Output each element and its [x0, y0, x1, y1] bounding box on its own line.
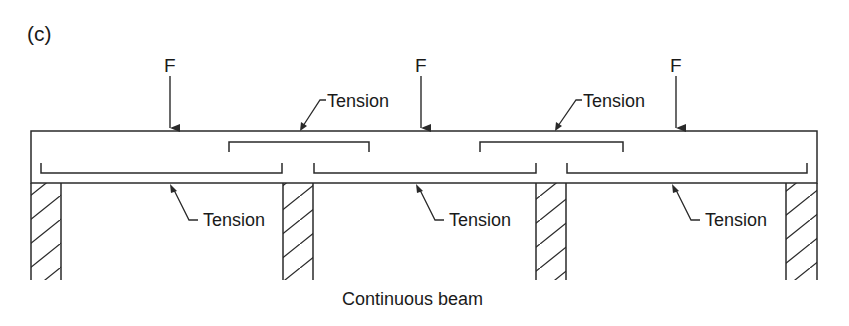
tension-leader-top-1: [300, 100, 326, 131]
tension-label-bottom-1: Tension: [203, 211, 265, 229]
force-label-3: F: [670, 56, 682, 75]
force-label-1: F: [164, 56, 176, 75]
top-reinforcement-1: [229, 142, 369, 152]
support-2: [283, 183, 313, 280]
support-4: [786, 183, 817, 280]
tension-leader-bottom-1: [170, 184, 198, 220]
tension-leader-bottom-2: [416, 184, 444, 220]
continuous-beam-diagram: [0, 0, 849, 326]
beam: [31, 131, 817, 183]
support-3: [536, 183, 566, 280]
bottom-reinforcement-1: [41, 163, 282, 173]
tension-leader-bottom-3: [672, 184, 700, 220]
tension-leader-top-2: [555, 100, 582, 131]
panel-label: (c): [27, 23, 52, 44]
force-label-2: F: [415, 56, 427, 75]
tension-label-top-1: Tension: [327, 92, 389, 110]
bottom-reinforcement-2: [314, 163, 536, 173]
tension-label-bottom-3: Tension: [705, 211, 767, 229]
tension-label-bottom-2: Tension: [449, 211, 511, 229]
bottom-reinforcement-3: [567, 163, 807, 173]
top-reinforcement-2: [480, 142, 623, 152]
tension-label-top-2: Tension: [583, 92, 645, 110]
support-1: [31, 183, 61, 280]
figure-caption: Continuous beam: [342, 290, 483, 308]
